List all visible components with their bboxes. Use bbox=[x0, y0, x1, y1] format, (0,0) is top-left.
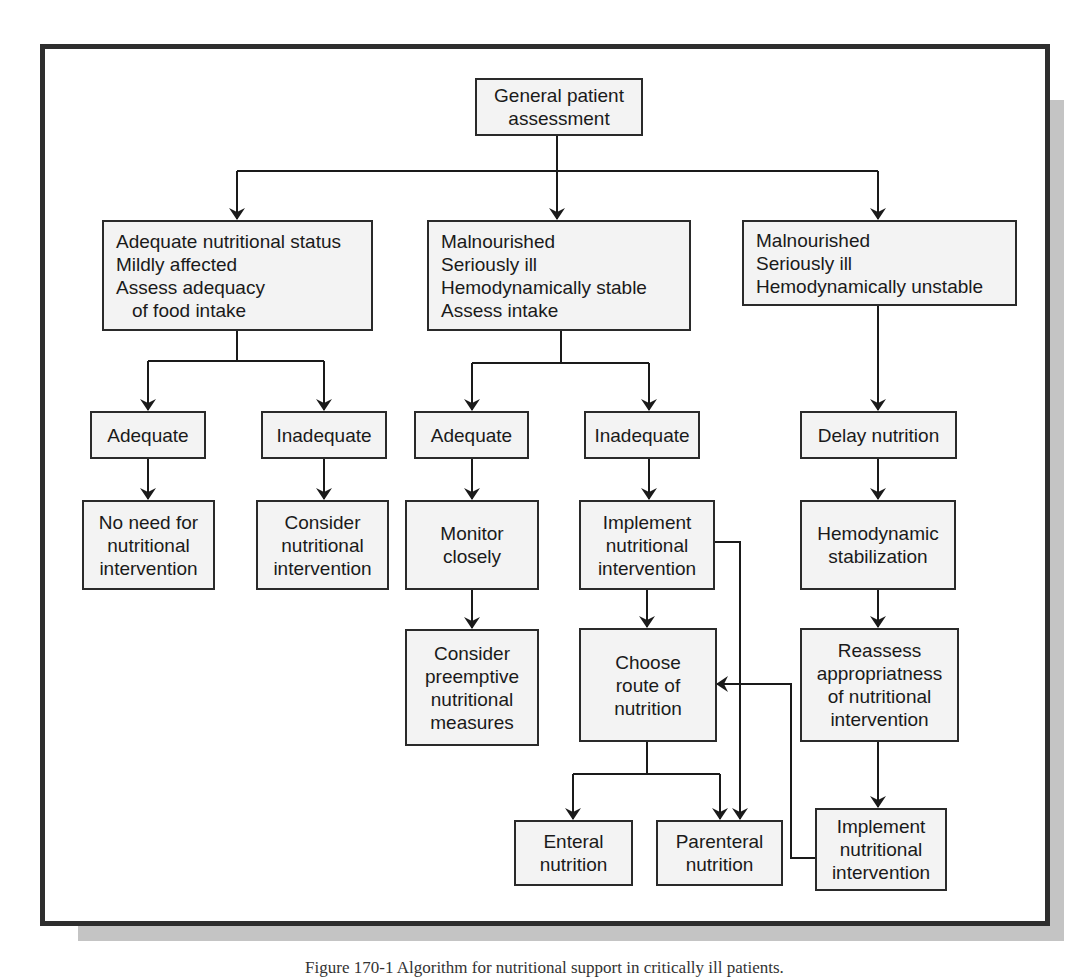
box-monitor-closely: Monitor closely bbox=[405, 500, 539, 590]
box-text: intervention bbox=[273, 557, 371, 580]
box-text: Assess adequacy bbox=[116, 276, 265, 299]
box-reassess-appropriateness: Reassess appropriatness of nutritional i… bbox=[800, 628, 959, 742]
box-text: stabilization bbox=[828, 545, 927, 568]
box-text: Adequate bbox=[107, 424, 188, 447]
box-text: nutritional bbox=[107, 534, 189, 557]
box-left-adequate: Adequate bbox=[90, 411, 206, 459]
box-delay-nutrition: Delay nutrition bbox=[800, 411, 957, 459]
box-text: Hemodynamically unstable bbox=[756, 275, 983, 298]
box-text: intervention bbox=[832, 861, 930, 884]
box-adequate-nutritional-status: Adequate nutritional status Mildly affec… bbox=[102, 220, 373, 331]
box-text: measures bbox=[430, 711, 513, 734]
box-text: intervention bbox=[830, 708, 928, 731]
box-text: Assess intake bbox=[441, 299, 558, 322]
box-text: of nutritional bbox=[828, 685, 932, 708]
box-malnourished-stable: Malnourished Seriously ill Hemodynamical… bbox=[427, 220, 691, 331]
box-text: nutritional bbox=[840, 838, 922, 861]
box-text: Delay nutrition bbox=[818, 424, 939, 447]
box-text: Monitor bbox=[440, 522, 503, 545]
box-text: Implement bbox=[837, 815, 926, 838]
box-text: Consider bbox=[434, 642, 510, 665]
box-text: Inadequate bbox=[276, 424, 371, 447]
box-text: Hemodynamically stable bbox=[441, 276, 647, 299]
box-choose-route: Choose route of nutrition bbox=[579, 628, 717, 742]
box-text: Malnourished bbox=[756, 229, 870, 252]
box-text: Adequate nutritional status bbox=[116, 230, 341, 253]
box-implement-intervention-right: Implement nutritional intervention bbox=[815, 808, 947, 891]
box-text: intervention bbox=[598, 557, 696, 580]
box-parenteral-nutrition: Parenteral nutrition bbox=[656, 820, 783, 886]
box-text: intervention bbox=[99, 557, 197, 580]
box-text: No need for bbox=[99, 511, 198, 534]
box-text: assessment bbox=[508, 107, 609, 130]
box-text: Enteral bbox=[543, 830, 603, 853]
box-text: Reassess bbox=[838, 639, 921, 662]
box-text: Seriously ill bbox=[756, 252, 852, 275]
box-text: Consider bbox=[284, 511, 360, 534]
box-text: Implement bbox=[603, 511, 692, 534]
box-text: appropriatness bbox=[817, 662, 943, 685]
box-consider-intervention: Consider nutritional intervention bbox=[256, 500, 389, 590]
box-text: General patient bbox=[494, 84, 624, 107]
box-text: Adequate bbox=[431, 424, 512, 447]
box-text: nutritional bbox=[281, 534, 363, 557]
box-left-inadequate: Inadequate bbox=[261, 411, 387, 459]
box-mid-adequate: Adequate bbox=[414, 411, 529, 459]
box-general-assessment: General patient assessment bbox=[475, 78, 643, 136]
box-implement-intervention-mid: Implement nutritional intervention bbox=[579, 500, 715, 590]
box-text: nutrition bbox=[614, 697, 682, 720]
box-malnourished-unstable: Malnourished Seriously ill Hemodynamical… bbox=[742, 220, 1017, 306]
box-text: preemptive bbox=[425, 665, 519, 688]
box-text: Malnourished bbox=[441, 230, 555, 253]
box-enteral-nutrition: Enteral nutrition bbox=[514, 820, 633, 886]
box-text: Parenteral bbox=[676, 830, 764, 853]
box-preemptive-measures: Consider preemptive nutritional measures bbox=[405, 629, 539, 746]
figure-caption: Figure 170-1 Algorithm for nutritional s… bbox=[0, 958, 1089, 978]
box-text: closely bbox=[443, 545, 501, 568]
box-text: nutrition bbox=[686, 853, 754, 876]
box-text: nutrition bbox=[540, 853, 608, 876]
box-text: Inadequate bbox=[594, 424, 689, 447]
box-text: Hemodynamic bbox=[817, 522, 938, 545]
box-text: nutritional bbox=[431, 688, 513, 711]
box-text: Choose bbox=[615, 651, 681, 674]
box-text: route of bbox=[616, 674, 680, 697]
box-mid-inadequate: Inadequate bbox=[584, 411, 700, 459]
box-no-need-intervention: No need for nutritional intervention bbox=[82, 500, 215, 590]
box-text: of food intake bbox=[116, 299, 246, 322]
box-hemodynamic-stabilization: Hemodynamic stabilization bbox=[800, 500, 956, 590]
box-text: Mildly affected bbox=[116, 253, 237, 276]
box-text: nutritional bbox=[606, 534, 688, 557]
box-text: Seriously ill bbox=[441, 253, 537, 276]
